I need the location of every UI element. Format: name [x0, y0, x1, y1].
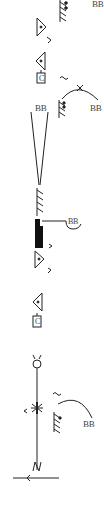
- notation-strokes: [0, 0, 104, 513]
- wave-icon: [60, 77, 68, 80]
- ring-icon: [33, 355, 41, 368]
- triangle-right-icon: [35, 251, 44, 268]
- arrow-left-icon: [13, 475, 59, 481]
- hatched-support-icon: [54, 412, 61, 433]
- hatched-support-icon: [37, 188, 43, 216]
- box-c-label: C: [35, 318, 40, 326]
- label-bb: BB: [35, 104, 46, 113]
- wave-icon: [53, 393, 61, 396]
- v-lines-icon: [31, 112, 48, 185]
- chevron-right-icon: [48, 268, 51, 273]
- hatched-support-icon: [59, 100, 65, 118]
- label-bb: BB: [90, 104, 101, 113]
- label-bb: BB: [92, 0, 103, 9]
- label-bb: BB: [68, 218, 78, 226]
- lower-arc-icon: [58, 400, 92, 418]
- chevron-right-icon: [49, 244, 52, 248]
- hatched-support-icon: [60, 0, 67, 22]
- triangle-left-icon: [33, 293, 42, 311]
- box-c-label: C: [39, 75, 44, 83]
- arc-with-cross-icon: [62, 85, 98, 100]
- label-bb: BB: [83, 420, 94, 429]
- triangle-right-icon: [37, 18, 46, 36]
- chevron-right-icon: [47, 37, 51, 43]
- vertical-line-with-asterisk-icon: [24, 368, 43, 470]
- notation-diagram: BB BB BB BB BB C C: [0, 0, 104, 513]
- triangle-left-icon: [36, 52, 45, 70]
